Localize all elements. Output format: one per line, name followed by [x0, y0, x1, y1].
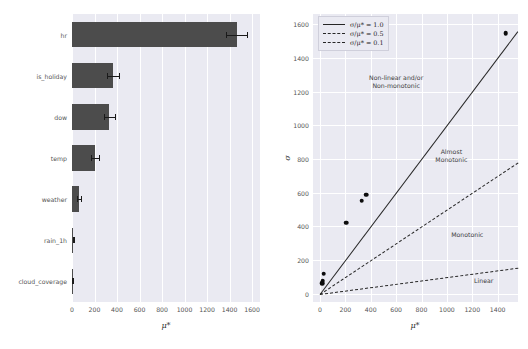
reference-line-dashed: [320, 162, 519, 294]
error-bar-cap: [74, 237, 75, 243]
legend-item-label: σ/μ* = 0.1: [350, 39, 383, 47]
grid-line: [313, 92, 518, 93]
grid-line: [185, 14, 186, 302]
y-tick-label: 600: [279, 189, 309, 196]
y-tick-label: weather: [0, 196, 67, 203]
scatter-plot-axes: Non-linear and/or Non-monotonicAlmost Mo…: [313, 14, 518, 302]
y-tick-label: 1400: [279, 54, 309, 61]
error-bar-cap: [99, 155, 100, 161]
grid-line: [252, 14, 253, 302]
error-bar-cap: [77, 196, 78, 202]
grid-line: [162, 14, 163, 302]
legend-item[interactable]: σ/μ* = 1.0: [323, 20, 383, 29]
x-tick-label: 1600: [244, 306, 260, 313]
error-bar-cap: [73, 278, 74, 284]
grid-line: [313, 294, 518, 295]
x-tick-label: 0: [318, 306, 322, 313]
x-tick-label: 600: [134, 306, 146, 313]
grid-line: [313, 226, 518, 227]
legend-item[interactable]: σ/μ* = 0.5: [323, 29, 383, 38]
scatter-point: [364, 192, 369, 197]
x-tick-label: 1000: [177, 306, 193, 313]
legend-item[interactable]: σ/μ* = 0.1: [323, 38, 383, 47]
scatter-point: [320, 281, 325, 286]
grid-line: [313, 58, 518, 59]
x-tick-label: 1400: [222, 306, 238, 313]
error-bar-cap: [119, 73, 120, 79]
dashed-line-icon: [323, 33, 345, 34]
x-tick-label: 400: [365, 306, 377, 313]
grid-line: [313, 159, 518, 160]
bar-chart-x-axis-label: μ*: [161, 321, 170, 330]
x-tick-label: 0: [70, 306, 74, 313]
monotonic-region: Monotonic: [451, 231, 483, 239]
grid-line: [230, 14, 231, 302]
x-tick-label: 1000: [439, 306, 455, 313]
error-bar: [226, 35, 247, 36]
bar: [72, 22, 237, 48]
non-linear-region: Non-linear and/or Non-monotonic: [369, 75, 423, 91]
solid-line-icon: [323, 24, 345, 25]
scatter-x-axis-label: μ*: [410, 321, 419, 330]
y-tick-label: is_holiday: [0, 72, 67, 79]
y-tick-label: 400: [279, 223, 309, 230]
x-tick-label: 800: [156, 306, 168, 313]
x-tick-label: 1400: [490, 306, 506, 313]
legend-item-label: σ/μ* = 0.5: [350, 30, 383, 38]
legend-item-label: σ/μ* = 1.0: [350, 21, 383, 29]
x-tick-label: 200: [339, 306, 351, 313]
y-tick-label: 1600: [279, 21, 309, 28]
error-bar: [91, 158, 100, 159]
y-tick-label: 0: [279, 290, 309, 297]
scatter-y-axis-label: σ: [283, 155, 292, 160]
grid-line: [117, 14, 118, 302]
x-tick-label: 400: [111, 306, 123, 313]
grid-line: [207, 14, 208, 302]
error-bar-cap: [226, 32, 227, 38]
y-tick-label: hr: [0, 31, 67, 38]
error-bar-cap: [81, 196, 82, 202]
grid-line: [313, 193, 518, 194]
x-tick-label: 200: [89, 306, 101, 313]
scatter-point: [344, 220, 349, 225]
scatter-point: [503, 31, 508, 36]
almost-monotonic-region: Almost Monotonic: [435, 149, 467, 165]
x-tick-label: 1200: [464, 306, 480, 313]
y-tick-label: 200: [279, 257, 309, 264]
grid-line: [140, 14, 141, 302]
scatter-point: [360, 199, 365, 204]
bar-chart-axes: [72, 14, 260, 302]
x-tick-label: 600: [390, 306, 402, 313]
morris-sensitivity-figure: 02004006008001000120014001600 hris_holid…: [0, 0, 528, 349]
y-tick-label: 1000: [279, 122, 309, 129]
scatter-point: [321, 271, 326, 276]
y-tick-label: cloud_coverage: [0, 278, 67, 285]
y-tick-label: 1200: [279, 88, 309, 95]
y-tick-label: rain_1h: [0, 237, 67, 244]
error-bar-cap: [107, 73, 108, 79]
error-bar-cap: [115, 114, 116, 120]
error-bar: [104, 117, 115, 118]
error-bar-cap: [104, 114, 105, 120]
error-bar: [107, 76, 119, 77]
grid-line: [313, 125, 518, 126]
y-tick-label: dow: [0, 113, 67, 120]
error-bar-cap: [247, 32, 248, 38]
x-tick-label: 1200: [199, 306, 215, 313]
dash-dot-line-icon: [323, 42, 345, 43]
linear-region: Linear: [474, 277, 493, 285]
y-tick-label: temp: [0, 155, 67, 162]
scatter-legend[interactable]: σ/μ* = 1.0 σ/μ* = 0.5 σ/μ* = 0.1: [318, 16, 389, 51]
error-bar-cap: [91, 155, 92, 161]
x-tick-label: 800: [416, 306, 428, 313]
reference-line-solid: [320, 31, 519, 295]
